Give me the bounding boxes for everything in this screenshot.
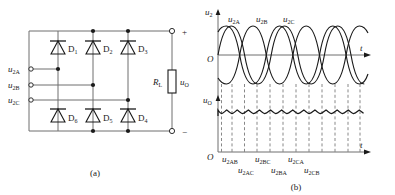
line-label-u2bc: u2BC — [255, 154, 271, 165]
output-terminal-negative — [169, 128, 174, 133]
figure-three-phase-bridge-rectifier: D1 D2 D3 D6 D5 D4 u2A u2B u2C RL uO — [0, 0, 395, 195]
bottom-axis-t-arrow — [364, 149, 371, 154]
commutation-dashed-lines — [222, 84, 361, 152]
terminal-sign-positive: + — [182, 27, 187, 37]
bottom-axis-arrow — [216, 95, 221, 101]
line-label-u2ca: u2CA — [288, 154, 305, 165]
top-axis-arrow — [216, 9, 221, 15]
line-label-u2ba: u2BA — [271, 165, 288, 176]
caption-a: (a) — [90, 168, 100, 178]
output-terminal-positive — [169, 28, 174, 33]
output-label-uo: uO — [180, 77, 190, 88]
load-resistor — [168, 70, 176, 93]
diode-label-d3: D3 — [138, 44, 148, 55]
top-axis-t-label: t — [360, 43, 363, 53]
node-dot-bottom-c — [126, 129, 130, 133]
phase-label-u2a: u2A — [228, 14, 241, 25]
input-terminal-b — [29, 83, 33, 87]
bottom-origin-label: O — [207, 152, 214, 162]
node-dot-top-c — [126, 29, 130, 33]
bottom-axis-t-label: t — [360, 140, 363, 150]
node-dot-top-b — [91, 29, 95, 33]
phase-label-u2c: u2C — [283, 14, 295, 25]
node-dot-b — [91, 83, 95, 87]
bottom-axis-label-uo: uO — [203, 95, 213, 106]
load-label-rl: RL — [152, 77, 163, 88]
input-label-u2b: u2B — [8, 80, 20, 91]
rectified-output-waveform — [218, 110, 364, 116]
diode-label-d6: D6 — [68, 113, 78, 124]
circuit-diagram: D1 D2 D3 D6 D5 D4 u2A u2B u2C RL uO — [8, 27, 190, 178]
input-terminal-a — [29, 67, 33, 71]
waveform-diagram: u2 O t u2A u2B u2C u — [203, 7, 371, 192]
node-dot-bottom-b — [91, 129, 95, 133]
top-axis-t-arrow — [364, 52, 371, 57]
caption-b: (b) — [291, 182, 302, 192]
top-origin-label: O — [207, 54, 214, 64]
terminal-sign-negative: − — [182, 127, 187, 137]
input-label-u2c: u2C — [8, 95, 20, 106]
diode-label-d1: D1 — [68, 44, 78, 55]
top-axis-label-u2: u2 — [205, 7, 213, 18]
line-label-u2cb: u2CB — [304, 165, 320, 176]
diode-label-d2: D2 — [103, 44, 113, 55]
node-dot-c — [126, 98, 130, 102]
phase-label-u2b: u2B — [256, 14, 268, 25]
diode-label-d5: D5 — [103, 113, 113, 124]
diode-label-d4: D4 — [138, 113, 148, 124]
input-label-u2a: u2A — [8, 64, 21, 75]
line-label-u2ac: u2AC — [238, 165, 254, 176]
line-label-u2ab: u2AB — [222, 154, 238, 165]
input-terminal-c — [29, 98, 33, 102]
node-dot-a — [56, 67, 60, 71]
